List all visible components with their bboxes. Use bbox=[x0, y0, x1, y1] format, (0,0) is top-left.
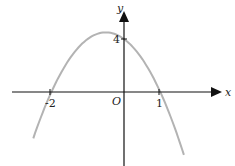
x-axis-arrow-icon bbox=[211, 87, 222, 97]
x-axis-label: x bbox=[225, 86, 232, 99]
tick-label-1: 1 bbox=[156, 97, 163, 110]
y-axis-label: y bbox=[116, 2, 124, 15]
tick-label-4: 4 bbox=[113, 33, 120, 46]
parabola-curve bbox=[33, 32, 184, 154]
tick-label-neg2: -2 bbox=[45, 97, 56, 110]
parabola-graph: x y O -2 1 4 bbox=[0, 0, 235, 166]
graph-svg: x y O -2 1 4 bbox=[0, 0, 235, 166]
origin-label: O bbox=[112, 95, 121, 108]
